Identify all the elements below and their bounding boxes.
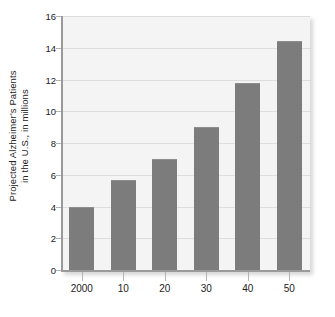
bar <box>69 207 94 271</box>
y-axis-tick-label: 14 <box>45 42 56 53</box>
x-axis-tick-labels: 20001020304050 <box>61 283 310 303</box>
plot-area <box>61 16 310 272</box>
y-axis-tick-label: 10 <box>45 106 56 117</box>
x-axis-tick-mark <box>248 272 249 281</box>
bar-chart: Projected Alzheimer's Patients in the U.… <box>0 0 335 317</box>
bar <box>111 180 136 270</box>
x-axis-tick-mark <box>289 272 290 281</box>
y-axis-line <box>61 16 63 272</box>
y-axis-title: Projected Alzheimer's Patients in the U.… <box>0 0 36 272</box>
x-axis-tick-label: 50 <box>284 283 295 294</box>
x-axis-tick-mark <box>206 272 207 281</box>
bar <box>277 41 302 270</box>
y-axis-tick-labels: 0246810121416 <box>34 16 56 272</box>
bar <box>235 83 260 270</box>
x-axis-tick-mark <box>82 272 83 281</box>
bars-group <box>61 16 310 272</box>
y-axis-tick-label: 16 <box>45 11 56 22</box>
y-axis-title-line-1: Projected Alzheimer's Patients <box>6 70 18 201</box>
bar <box>194 127 219 270</box>
x-axis-tick-label: 10 <box>118 283 129 294</box>
bar <box>152 159 177 270</box>
y-axis-title-line-2: in the U.S., in millions <box>18 70 30 201</box>
x-axis-tick-label: 40 <box>242 283 253 294</box>
x-axis-tick-mark <box>165 272 166 281</box>
x-axis-tick-label: 30 <box>201 283 212 294</box>
x-axis-tick-label: 20 <box>159 283 170 294</box>
x-axis-tick-label: 2000 <box>71 283 93 294</box>
y-axis-tick-label: 12 <box>45 74 56 85</box>
x-axis-tick-mark <box>123 272 124 281</box>
x-axis-tick-marks <box>61 272 310 281</box>
